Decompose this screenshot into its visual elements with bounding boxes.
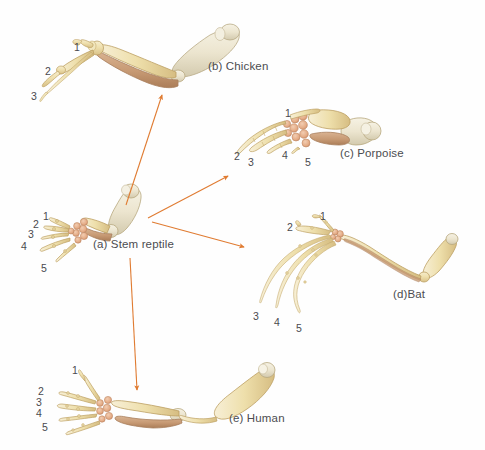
human-digit-1 <box>83 375 100 401</box>
digit-label-stem-reptile-3: 3 <box>28 228 34 240</box>
human-digit-2 <box>59 392 96 404</box>
digit-label-chicken-1: 1 <box>74 41 80 53</box>
digit-label-porpoise-3: 3 <box>248 156 254 168</box>
digit-label-stem-reptile-1: 1 <box>43 210 49 222</box>
caption-bat: (d)Bat <box>393 288 425 300</box>
digit-label-porpoise-4: 4 <box>282 149 288 161</box>
porpoise-humerus-head-detail <box>361 123 371 135</box>
digit-label-porpoise-5: 5 <box>305 156 311 168</box>
digit-label-bat-4: 4 <box>274 316 280 328</box>
caption-human: (e) Human <box>229 412 285 424</box>
arrow-to-porpoise <box>148 176 228 218</box>
stem-reptile-humerus-head-detail <box>122 185 131 195</box>
digit-label-bat-5: 5 <box>296 322 302 334</box>
digit-label-bat-3: 3 <box>253 310 259 322</box>
stem-reptile-digit-5 <box>56 243 76 262</box>
stem-reptile-carpals <box>68 218 88 243</box>
stem-reptile-digits <box>40 218 76 262</box>
caption-porpoise: (c) Porpoise <box>340 147 404 159</box>
bat-humerus-head <box>446 234 458 245</box>
digit-label-porpoise-1: 1 <box>285 107 291 119</box>
digit-label-stem-reptile-4: 4 <box>21 240 27 252</box>
chicken-humerus-head-detail <box>215 28 225 41</box>
human-radius <box>112 401 179 416</box>
bat-digit-2-tip <box>296 221 301 226</box>
limb-stem-reptile <box>40 184 141 262</box>
digit-label-stem-reptile-5: 5 <box>41 262 47 274</box>
digit-label-chicken-2: 2 <box>45 65 51 77</box>
digit-label-human-5: 5 <box>42 421 48 433</box>
porpoise-digit-5 <box>292 147 300 154</box>
human-carpals <box>97 396 113 422</box>
digit-label-human-1: 1 <box>72 364 78 376</box>
caption-chicken: (b) Chicken <box>208 60 268 72</box>
chicken-digit-3-tip <box>40 92 48 102</box>
bat-digit-5 <box>294 241 336 313</box>
human-humerus-head-detail <box>259 364 268 374</box>
digit-label-chicken-3: 3 <box>31 90 37 102</box>
human-digits-2-5 <box>57 392 100 435</box>
human-digit-5 <box>66 421 100 435</box>
digit-label-bat-2: 2 <box>287 221 293 233</box>
digit-label-bat-1: 1 <box>320 210 326 222</box>
chicken-digit-3 <box>45 52 93 95</box>
human-elbow-link <box>179 415 217 423</box>
bat-ulna <box>344 239 421 282</box>
arrow-to-human <box>130 258 137 390</box>
digit-label-human-4: 4 <box>36 407 42 419</box>
arrow-to-chicken <box>126 95 162 205</box>
digit-label-porpoise-2: 2 <box>234 150 240 162</box>
caption-stem-reptile: (a) Stem reptile <box>93 238 174 250</box>
figure-container: (a) Stem reptile (b) Chicken (c) Porpois… <box>0 0 485 450</box>
stem-reptile-digit-3 <box>41 233 69 239</box>
